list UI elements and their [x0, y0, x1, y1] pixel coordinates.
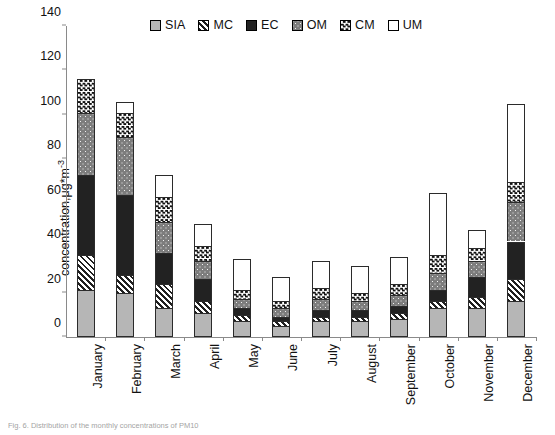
- bar-segment-january-om: [77, 113, 95, 175]
- x-axis-tick-mark-may: [262, 337, 263, 341]
- bar-segment-may-mc: [233, 315, 251, 322]
- bar-segment-june-um: [272, 277, 290, 301]
- y-axis-tick-40: 40: [47, 227, 61, 241]
- bar-segment-may-ec: [233, 308, 251, 315]
- bar-december[interactable]: [507, 26, 525, 337]
- y-axis-tick-mark-100: [62, 113, 66, 114]
- bar-segment-may-um: [233, 259, 251, 290]
- x-axis-tick-mark-june: [301, 337, 302, 341]
- x-axis-label-november: November: [482, 344, 496, 402]
- bar-segment-september-um: [390, 257, 408, 284]
- bar-segment-october-sia: [429, 308, 447, 337]
- bar-october[interactable]: [429, 26, 447, 337]
- y-axis-tick-0: 0: [54, 316, 61, 330]
- bar-segment-august-um: [351, 266, 369, 293]
- bar-segment-march-mc: [155, 284, 173, 308]
- bar-segment-september-mc: [390, 313, 408, 320]
- bar-segment-may-cm: [233, 290, 251, 299]
- x-axis-tick-mark-november: [497, 337, 498, 341]
- bar-segment-october-om: [429, 273, 447, 291]
- bar-june[interactable]: [272, 26, 290, 337]
- x-axis-label-february: February: [130, 344, 144, 394]
- bar-segment-december-um: [507, 104, 525, 182]
- bar-january[interactable]: [77, 26, 95, 337]
- y-axis-tick-60: 60: [47, 183, 61, 197]
- bar-segment-april-mc: [194, 301, 212, 312]
- bar-segment-october-um: [429, 193, 447, 255]
- bar-segment-december-cm: [507, 182, 525, 202]
- bar-segment-march-cm: [155, 197, 173, 221]
- bar-segment-december-sia: [507, 301, 525, 337]
- x-axis-label-september: September: [404, 344, 418, 405]
- bar-september[interactable]: [390, 26, 408, 337]
- bar-segment-july-cm: [312, 288, 330, 299]
- x-axis-label-june: June: [286, 344, 300, 371]
- bar-segment-march-sia: [155, 308, 173, 337]
- bar-segment-april-sia: [194, 313, 212, 337]
- bar-april[interactable]: [194, 26, 212, 337]
- y-axis-tick-mark-120: [62, 69, 66, 70]
- bar-segment-november-um: [468, 230, 486, 248]
- y-axis-label-exponent: -3: [56, 160, 66, 168]
- x-axis-label-march: March: [169, 344, 183, 379]
- bar-november[interactable]: [468, 26, 486, 337]
- bar-segment-december-mc: [507, 279, 525, 301]
- y-axis-tick-mark-20: [62, 291, 66, 292]
- bar-segment-november-mc: [468, 297, 486, 308]
- bar-segment-july-ec: [312, 310, 330, 317]
- x-axis-tick-mark-september: [419, 337, 420, 341]
- bar-segment-september-om: [390, 295, 408, 306]
- bar-segment-july-um: [312, 261, 330, 288]
- bar-segment-march-om: [155, 222, 173, 253]
- bar-segment-november-om: [468, 261, 486, 277]
- bar-segment-november-cm: [468, 248, 486, 261]
- bar-segment-april-um: [194, 224, 212, 246]
- bar-segment-december-om: [507, 202, 525, 242]
- y-axis-tick-80: 80: [47, 138, 61, 152]
- y-axis-tick-mark-40: [62, 247, 66, 248]
- plot-area: 020406080100120140: [66, 26, 536, 337]
- bar-segment-january-cm: [77, 79, 95, 112]
- x-axis-label-may: May: [247, 344, 261, 368]
- x-axis-label-december: December: [521, 344, 535, 402]
- bar-segment-august-cm: [351, 293, 369, 302]
- bar-segment-june-ec: [272, 317, 290, 321]
- y-axis-tick-mark-140: [62, 25, 66, 26]
- bar-segment-september-cm: [390, 284, 408, 295]
- bar-segment-june-cm: [272, 301, 290, 308]
- bar-segment-august-om: [351, 301, 369, 310]
- x-axis-tick-mark-july: [340, 337, 341, 341]
- bar-february[interactable]: [116, 26, 134, 337]
- bar-segment-november-sia: [468, 308, 486, 337]
- bar-may[interactable]: [233, 26, 251, 337]
- x-axis-label-october: October: [443, 344, 457, 388]
- x-axis-label-july: July: [326, 344, 340, 366]
- bar-segment-october-ec: [429, 290, 447, 301]
- x-axis-tick-mark-december: [536, 337, 537, 341]
- x-axis-tick-mark-march: [184, 337, 185, 341]
- bar-segment-april-om: [194, 261, 212, 279]
- bar-segment-january-sia: [77, 290, 95, 337]
- bar-segment-january-ec: [77, 175, 95, 255]
- bar-august[interactable]: [351, 26, 369, 337]
- bar-segment-may-sia: [233, 321, 251, 337]
- y-axis-tick-140: 140: [40, 5, 61, 19]
- bar-segment-november-ec: [468, 277, 486, 297]
- bar-july[interactable]: [312, 26, 330, 337]
- bar-segment-september-sia: [390, 319, 408, 337]
- bar-segment-february-cm: [116, 113, 134, 137]
- bar-segment-october-cm: [429, 255, 447, 273]
- y-axis-tick-120: 120: [40, 49, 61, 63]
- x-axis-tick-mark-january: [105, 337, 106, 341]
- x-axis-label-april: April: [208, 344, 222, 369]
- bar-march[interactable]: [155, 26, 173, 337]
- bar-segment-july-mc: [312, 317, 330, 321]
- bar-segment-august-mc: [351, 317, 369, 321]
- bar-segment-august-ec: [351, 310, 369, 317]
- bar-segment-february-ec: [116, 195, 134, 275]
- bar-segment-june-om: [272, 308, 290, 317]
- x-axis-label-august: August: [365, 344, 379, 383]
- bar-segment-march-ec: [155, 253, 173, 284]
- bar-segment-july-om: [312, 299, 330, 310]
- bar-segment-october-mc: [429, 301, 447, 308]
